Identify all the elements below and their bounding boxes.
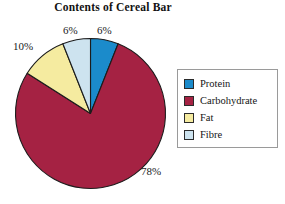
legend-swatch-carbohydrate-icon [184,96,194,106]
legend-item-fat[interactable]: Fat [184,109,277,126]
legend-swatch-fibre-icon [184,130,194,140]
legend-item-carbohydrate[interactable]: Carbohydrate [184,92,277,109]
legend-swatch-protein-icon [184,79,194,89]
pie-label-fat-pct: 10% [13,40,33,52]
pie-label-carbohydrate-pct: 78% [141,165,161,177]
legend-label-protein: Protein [200,78,230,89]
pie-chart-figure: Contents of Cereal Bar 6% 6% 10% 78% Pro… [0,0,285,204]
legend-item-fibre[interactable]: Fibre [184,126,277,143]
legend-label-fibre: Fibre [200,129,222,140]
legend-item-protein[interactable]: Protein [184,75,277,92]
legend-swatch-fat-icon [184,113,194,123]
legend-label-carbohydrate: Carbohydrate [200,95,257,106]
legend: Protein Carbohydrate Fat Fibre [177,69,278,148]
pie-label-protein-pct: 6% [97,24,112,36]
pie-label-fibre-pct: 6% [63,24,78,36]
legend-label-fat: Fat [200,112,213,123]
